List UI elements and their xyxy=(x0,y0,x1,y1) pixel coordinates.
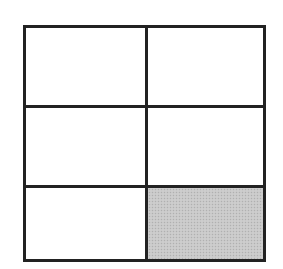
grid-cell-r1-c1 xyxy=(26,28,145,105)
grid-cell-r1-c2 xyxy=(148,28,263,105)
grid-diagram xyxy=(23,25,266,262)
grid-cell-r2-c1 xyxy=(26,108,145,185)
grid-cell-r2-c2 xyxy=(148,108,263,185)
grid-cell-r3-c2-shaded xyxy=(148,188,263,259)
grid-cell-r3-c1 xyxy=(26,188,145,259)
